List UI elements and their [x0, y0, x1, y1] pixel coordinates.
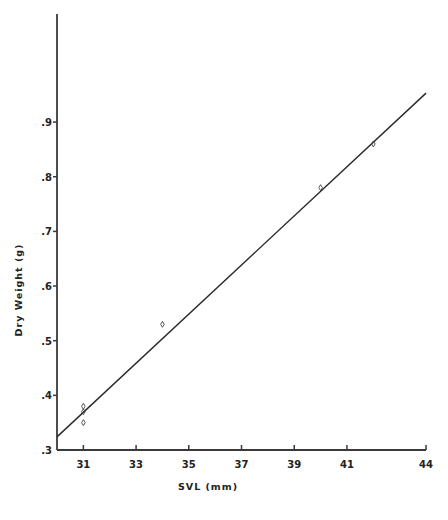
x-axis-title: SVL (mm)	[178, 481, 238, 492]
y-tick-label: .5	[41, 336, 52, 347]
y-axis-title: Dry Weight (g)	[13, 244, 24, 337]
x-tick-label: 39	[287, 459, 301, 470]
data-point-diamond	[82, 420, 86, 426]
fit-line	[57, 93, 426, 437]
scatter-chart: .3.4.5.6.7.8.9 31333537394144 SVL (mm) D…	[0, 0, 448, 520]
x-tick-label: 44	[419, 459, 433, 470]
y-tick-label: .9	[41, 117, 52, 128]
x-tick-label: 37	[235, 459, 249, 470]
data-points	[82, 141, 376, 426]
y-tick-label: .7	[41, 226, 52, 237]
y-tick-label: .6	[41, 281, 52, 292]
y-tick-label: .3	[41, 445, 52, 456]
x-tick-label: 33	[129, 459, 143, 470]
y-tick-label: .4	[41, 390, 52, 401]
x-tick-label: 41	[340, 459, 354, 470]
y-axis: .3.4.5.6.7.8.9	[41, 14, 57, 456]
regression-line	[57, 93, 426, 437]
x-tick-label: 31	[76, 459, 90, 470]
x-axis: 31333537394144	[57, 445, 433, 470]
data-point-diamond	[161, 321, 165, 327]
y-tick-label: .8	[41, 172, 52, 183]
x-tick-label: 35	[182, 459, 196, 470]
